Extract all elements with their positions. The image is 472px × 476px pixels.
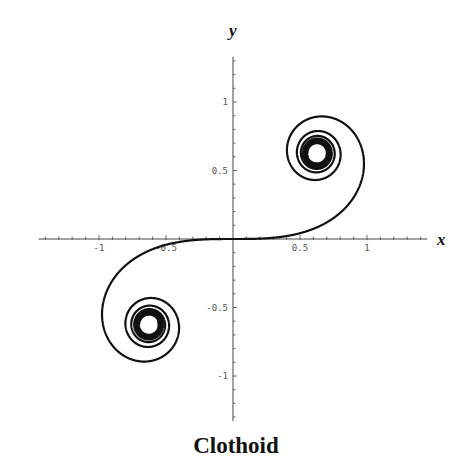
y-tick-label: -0.5 (206, 303, 228, 313)
y-tick-label: -1 (217, 371, 228, 381)
x-axis-label: x (436, 230, 446, 249)
x-tick-label: 0.5 (292, 243, 308, 253)
x-tick-label: 1 (364, 243, 369, 253)
clothoid-chart: -1-0.50.5110.5-0.5-1 x y (0, 0, 472, 476)
x-tick-label: -1 (94, 243, 105, 253)
y-tick-label: 1 (223, 97, 228, 107)
chart-title: Clothoid (0, 433, 472, 459)
y-tick-label: 0.5 (212, 166, 228, 176)
y-axis-label: y (227, 21, 237, 40)
